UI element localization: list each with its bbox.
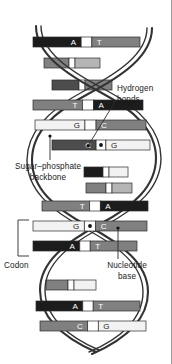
base-block-left [86, 183, 106, 193]
base-pair-rung: CG [40, 321, 146, 331]
label-codon: Codon [4, 261, 29, 272]
nucleotide-base-leader-anchor-dot [116, 226, 119, 229]
base-pair-rung: CG [52, 140, 150, 150]
codon-bracket [18, 220, 29, 256]
base-pair-rung: TA [42, 201, 148, 211]
label-sugar-phosphate-line1: Sugar–phosphate [6, 162, 90, 173]
base-letter-right: C [101, 222, 107, 231]
base-letter-right: T [95, 242, 100, 251]
base-letter-left: C [77, 322, 83, 331]
hydrogen-bond-gap [80, 241, 90, 251]
hydrogen-bond-gap [83, 100, 94, 110]
label-hydrogen-bonds: Hydrogen bonds [117, 84, 153, 105]
hydrogen-bond-gap [88, 321, 99, 331]
label-nucleotide-base-line1: Nucleotide [93, 261, 161, 272]
label-hydrogen-bonds-line2: bonds [117, 95, 153, 106]
label-hydrogen-bonds-line1: Hydrogen [117, 84, 153, 95]
sugar-phosphate-leader-anchor-dot [48, 134, 51, 137]
base-letter-left: T [73, 101, 78, 110]
base-pair-rung [46, 280, 96, 290]
label-codon-line1: Codon [4, 261, 29, 272]
base-block-right [75, 58, 100, 68]
hydrogen-bond-gap [90, 201, 101, 211]
base-letter-left: A [69, 242, 75, 251]
base-letter-right: G [111, 141, 117, 150]
base-pair-rung [86, 183, 132, 193]
base-letter-right: A [105, 202, 111, 211]
label-nucleotide-base: Nucleotide base [93, 261, 161, 282]
codon-bracket-path [18, 220, 29, 256]
base-block-left [52, 80, 79, 90]
hydrogen-bond-gap [106, 183, 112, 193]
base-block-right [112, 183, 132, 193]
nucleotide-base-dot [88, 224, 92, 228]
base-letter-right: T [98, 302, 103, 311]
hydrogen-bond-gap [103, 167, 109, 177]
base-pair-rung: AT [33, 241, 137, 251]
hydrogen-bond-gap [68, 280, 74, 290]
base-pair-rung [84, 167, 128, 177]
hydrogen-bond-gap [83, 301, 93, 311]
label-sugar-phosphate-line2: backbone [6, 173, 90, 184]
base-block-right [109, 167, 128, 177]
base-letter-left: G [74, 121, 80, 130]
base-pair-rung: AT [36, 301, 140, 311]
base-letter-left: A [71, 38, 77, 47]
base-pair-rung: AT [33, 37, 140, 47]
hydrogen-bonds-leader-anchor-dot [86, 144, 89, 147]
nucleotide-base-dot [99, 143, 103, 147]
dna-figure-panel: ATTAGCCGTAGCATATCG Hydrogen bonds Sugar–… [0, 0, 172, 364]
hydrogen-bond-gap [85, 120, 96, 130]
base-letter-right: A [99, 101, 105, 110]
base-letter-left: T [80, 202, 85, 211]
base-letter-left: A [72, 302, 78, 311]
base-block-left [46, 280, 68, 290]
base-pair-rung: GC [33, 221, 147, 231]
hydrogen-bond-gap [81, 37, 92, 47]
base-letter-left: G [73, 222, 79, 231]
base-letter-right: T [97, 38, 102, 47]
base-pair-rung: GC [35, 120, 146, 130]
hydrogen-bond-gap [69, 58, 75, 68]
base-letter-right: G [103, 322, 109, 331]
label-nucleotide-base-line2: base [93, 272, 161, 283]
label-sugar-phosphate-backbone: Sugar–phosphate backbone [6, 162, 90, 183]
